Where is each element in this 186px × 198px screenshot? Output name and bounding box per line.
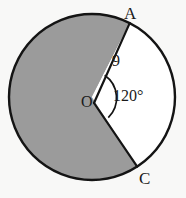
geometry-figure: A 9 120° O C xyxy=(0,0,186,198)
point-label-A: A xyxy=(124,5,136,22)
circle-diagram-svg xyxy=(0,0,186,198)
radius-length-label: 9 xyxy=(112,53,120,69)
angle-measure-label: 120° xyxy=(113,88,143,104)
point-label-C: C xyxy=(139,170,150,187)
center-label-O: O xyxy=(81,94,93,110)
